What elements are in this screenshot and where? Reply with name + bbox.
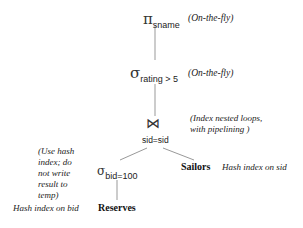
selection-rating-node: σrating > 5 (130, 64, 178, 82)
selection-rating-condition: rating > 5 (140, 74, 178, 84)
reserves-relation: Reserves (98, 202, 136, 213)
selection-rating-annotation: (On-the-fly) (188, 68, 233, 79)
annotation-line: not write (38, 168, 74, 179)
sailors-relation: Sailors (181, 161, 210, 172)
query-plan-diagram: πsname (On-the-fly) σrating > 5 (On-the-… (0, 0, 303, 228)
projection-attribute: sname (153, 20, 180, 30)
edge-join-sailors (163, 148, 194, 160)
edge-join-selection-bid (120, 148, 147, 160)
pi-symbol: π (143, 10, 153, 28)
join-annotation-line1: (Index nested loops, (190, 113, 262, 124)
join-condition: sid=sid (142, 135, 169, 145)
join-bowtie-icon: ⋈ (146, 116, 160, 131)
join-annotation-line2: with pipelining ) (190, 124, 262, 135)
annotation-line: temp) (38, 190, 74, 201)
sigma-symbol: σ (97, 164, 105, 178)
selection-bid-node: σbid=100 (97, 161, 138, 179)
annotation-line: index; do (38, 157, 74, 168)
sigma-symbol: σ (130, 64, 140, 82)
annotation-line: result to (38, 179, 74, 190)
sailors-annotation: Hash index on sid (222, 162, 287, 173)
selection-bid-annotation: (Use hash index; do not write result to … (38, 146, 74, 201)
join-annotation: (Index nested loops, with pipelining ) (190, 113, 262, 135)
annotation-line: (Use hash (38, 146, 74, 157)
selection-bid-condition: bid=100 (105, 171, 137, 181)
projection-annotation: (On-the-fly) (188, 13, 233, 24)
projection-node: πsname (143, 10, 180, 28)
reserves-annotation: Hash index on bid (13, 203, 79, 214)
